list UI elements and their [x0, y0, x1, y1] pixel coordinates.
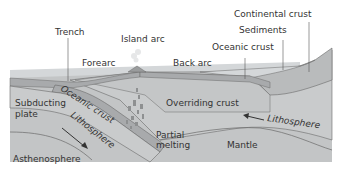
- label-sediments: Sediments: [239, 25, 287, 35]
- label-back-arc: Back arc: [173, 58, 212, 68]
- label-partial-2: melting: [156, 140, 190, 150]
- label-overriding-crust: Overriding crust: [166, 98, 239, 108]
- label-asthenosphere: Asthenosphere: [13, 154, 81, 164]
- label-island-arc: Island arc: [121, 34, 165, 44]
- label-continental-crust: Continental crust: [234, 9, 312, 19]
- label-subducting-1: Subducting: [15, 98, 66, 108]
- label-trench: Trench: [54, 27, 85, 37]
- subduction-diagram: Trench Island arc Forearc Back arc Conti…: [0, 0, 345, 173]
- label-mantle: Mantle: [227, 140, 258, 150]
- label-forearc: Forearc: [82, 58, 115, 68]
- volcanic-plume: [131, 49, 141, 63]
- label-partial-1: Partial: [156, 130, 184, 140]
- label-subducting-2: plate: [15, 109, 38, 119]
- label-oceanic-crust: Oceanic crust: [212, 42, 274, 52]
